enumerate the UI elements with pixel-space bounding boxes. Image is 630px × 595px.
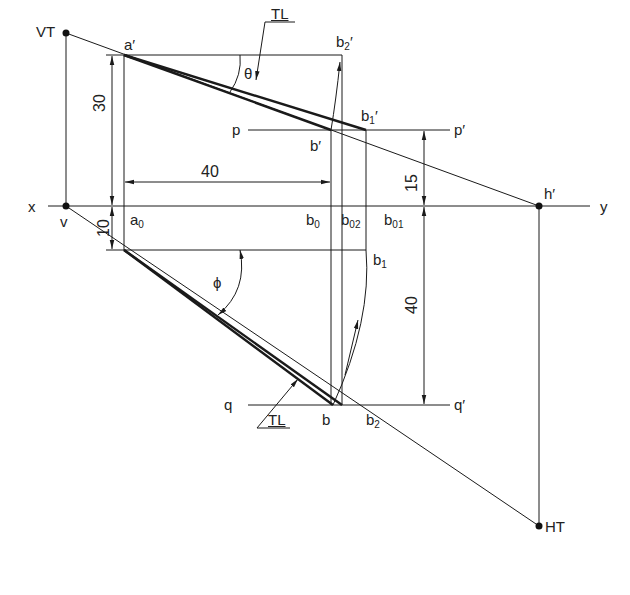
phi-arc: [218, 250, 242, 315]
v-point: [63, 203, 70, 210]
dim-30: 30: [92, 91, 108, 115]
label-v: v: [60, 214, 68, 229]
label-b0: b0: [306, 212, 320, 230]
label-p: p: [232, 122, 240, 137]
h-prime-point: [536, 203, 543, 210]
label-phi: ϕ: [213, 275, 221, 290]
label-p-prime: p′: [454, 122, 465, 137]
dim-15: 15: [404, 171, 420, 195]
label-b1-prime: b1′: [361, 108, 378, 126]
label-q-prime: q′: [454, 397, 465, 412]
label-b2-prime: b2′: [336, 34, 353, 52]
label-tl-bottom: TL: [268, 412, 286, 427]
rotation-arc-arrow: [345, 320, 358, 375]
true-length-top: [124, 250, 342, 405]
label-h-prime: h′: [544, 186, 555, 201]
ht-point: [536, 523, 543, 530]
dim-40-vertical: 40: [404, 293, 420, 317]
label-theta: θ: [244, 66, 252, 81]
label-b1: b1: [373, 252, 387, 270]
label-b2: b2: [366, 412, 380, 430]
dim-10: 10: [96, 218, 112, 238]
label-b-prime: b′: [310, 138, 321, 153]
label-q: q: [224, 397, 232, 412]
front-view-line: [124, 55, 331, 130]
label-b: b: [322, 412, 330, 427]
rotation-arc-top: [333, 250, 367, 405]
dim-40-horizontal: 40: [201, 164, 219, 180]
label-tl-top: TL: [271, 6, 289, 21]
label-b01: b01: [384, 212, 403, 230]
label-ht: HT: [545, 519, 565, 534]
label-b02: b02: [341, 212, 360, 230]
label-a-prime: a′: [124, 37, 135, 52]
projection-drawing: [0, 0, 630, 595]
label-x: x: [28, 199, 36, 214]
label-vt: VT: [36, 24, 55, 39]
tl-top-leader: [256, 22, 295, 80]
label-y: y: [600, 199, 608, 214]
vt-point: [63, 30, 70, 37]
label-a0: a0: [130, 212, 144, 230]
ht-line: [66, 206, 539, 526]
theta-arc: [230, 55, 240, 92]
